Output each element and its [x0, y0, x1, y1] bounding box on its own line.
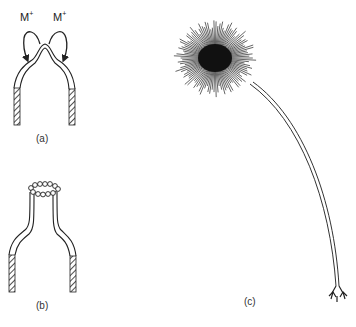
- panel-b-bead-ring: [29, 182, 61, 197]
- panel-b-label: (b): [36, 300, 48, 311]
- panel-c-dense-core: [198, 44, 232, 72]
- panel-a-label: (a): [36, 133, 48, 144]
- panel-a-tube: [14, 44, 75, 125]
- panel-c-label: (c): [244, 296, 256, 307]
- panel-a-ion-arrows: [24, 32, 67, 59]
- ion-label-right: M+: [53, 10, 66, 23]
- panel-c-stem: [250, 82, 339, 286]
- panel-c-root-tip: [329, 286, 347, 302]
- panel-b-tube: [9, 192, 76, 292]
- diagram-canvas: [0, 0, 356, 327]
- ion-label-left: M+: [20, 10, 33, 23]
